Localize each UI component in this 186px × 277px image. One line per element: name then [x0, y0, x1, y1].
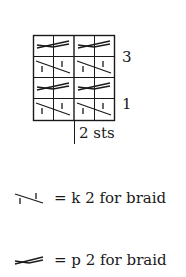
legend-item-p2-braid: = p 2 for braid	[14, 252, 167, 268]
p2-braid-icon	[14, 252, 44, 268]
braid-chart	[33, 35, 115, 121]
repeat-marker	[74, 120, 75, 144]
legend-text-p2: = p 2 for braid	[54, 253, 167, 268]
row-label-3: 3	[122, 50, 132, 65]
repeat-label: 2 sts	[79, 126, 115, 141]
k2-braid-icon	[14, 190, 44, 206]
legend-item-k2-braid: = k 2 for braid	[14, 190, 166, 206]
row-label-1: 1	[122, 97, 132, 112]
chart-grid	[33, 35, 115, 121]
legend-text-k2: = k 2 for braid	[54, 191, 166, 206]
